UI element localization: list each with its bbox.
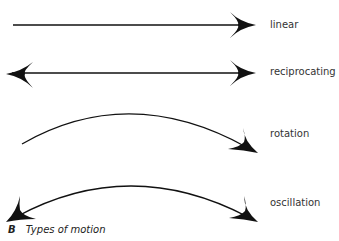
label-rotation: rotation: [270, 128, 309, 139]
caption-letter: B: [8, 224, 16, 235]
label-linear: linear: [270, 19, 298, 30]
caption-text: Types of motion: [26, 224, 106, 235]
label-reciprocating: reciprocating: [270, 66, 336, 77]
oscillation-arrow: [6, 186, 258, 222]
linear-arrow: [13, 12, 256, 38]
label-oscillation: oscillation: [270, 197, 320, 208]
rotation-arrow: [22, 114, 258, 153]
figure-caption: BTypes of motion: [8, 224, 106, 235]
reciprocating-arrow: [6, 60, 256, 88]
